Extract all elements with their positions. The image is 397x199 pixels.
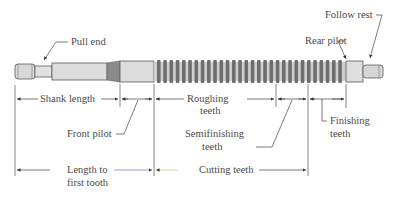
label-cutting-teeth: Cutting teeth	[199, 164, 254, 176]
label-finishing-teeth: teeth	[330, 128, 350, 140]
label-roughing-teeth: teeth	[200, 105, 220, 117]
label-first-tooth: first tooth	[67, 177, 108, 189]
label-roughing: Roughing	[187, 93, 228, 105]
label-finishing: Finishing	[330, 115, 370, 127]
label-front-pilot: Front pilot	[67, 128, 112, 140]
label-shank-length: Shank length	[40, 93, 95, 105]
label-length-to: Length to	[67, 164, 108, 176]
label-semifinishing: Semifinishing	[185, 128, 244, 140]
label-semifinishing-teeth: teeth	[202, 141, 222, 153]
label-follow-rest: Follow rest	[325, 9, 373, 21]
broach-diagram: Pull end Follow rest Rear pilot Shank le…	[0, 0, 397, 199]
label-rear-pilot: Rear pilot	[305, 35, 347, 47]
label-pull-end: Pull end	[71, 36, 106, 48]
